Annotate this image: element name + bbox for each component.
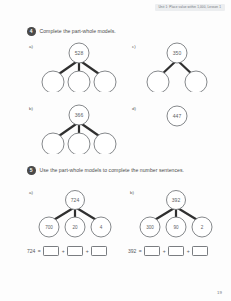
part-value-5a-3: 4 (100, 225, 103, 230)
part-circle-4a-3[interactable] (94, 71, 116, 92)
part-value-5a-1: 700 (45, 225, 53, 230)
number-sentence-5a: 724 = + + (27, 246, 107, 256)
part-value-5a-2: 20 (72, 225, 78, 230)
part-circle-4b-1[interactable] (42, 133, 64, 154)
whole-value-4a: 528 (75, 50, 84, 56)
part-circle-4a-2[interactable] (68, 71, 90, 92)
worksheet-page: Unit 1: Place value within 1,000, Lesson… (0, 0, 231, 301)
question-4-number-badge: 4 (27, 27, 36, 36)
part-circle-4b-2[interactable] (68, 133, 90, 154)
sentence-5a-plus-1: + (62, 248, 65, 254)
part-label-5b: b) (130, 190, 134, 195)
question-4-heading: 4 Complete the part-whole models. (0, 27, 231, 36)
part-circle-4b-3[interactable] (94, 133, 116, 154)
sentence-5a-blank-1[interactable] (43, 246, 59, 256)
part-whole-model-5b[interactable]: 392 300 90 2 (136, 188, 216, 238)
page-number: 19 (217, 290, 222, 295)
question-4: 4 Complete the part-whole models. (0, 27, 231, 36)
sentence-5b-blank-2[interactable] (168, 246, 184, 256)
sentence-5b-plus-1: + (163, 248, 166, 254)
part-label-4b: b) (29, 106, 33, 111)
part-whole-model-4a[interactable]: 528 (40, 40, 118, 92)
running-header-text: Unit 1: Place value within 1,000, Lesson… (159, 6, 221, 9)
sentence-5b-blank-1[interactable] (144, 246, 160, 256)
part-label-4c: c) (132, 44, 136, 49)
part-circle-4c-2[interactable] (185, 71, 207, 92)
whole-value-4d: 447 (173, 113, 182, 119)
sentence-5b-equals: = (139, 248, 142, 254)
whole-value-5a: 724 (71, 197, 80, 203)
whole-value-4b: 366 (75, 112, 84, 118)
running-header: Unit 1: Place value within 1,000, Lesson… (155, 4, 225, 11)
question-5-instruction: Use the part-whole models to complete th… (40, 168, 185, 173)
question-5: 5 Use the part-whole models to complete … (0, 166, 231, 175)
part-value-5b-3: 2 (201, 225, 204, 230)
sentence-5b-blank-3[interactable] (192, 246, 208, 256)
part-value-5b-1: 300 (146, 225, 154, 230)
part-circle-4a-1[interactable] (42, 71, 64, 92)
part-whole-model-4c[interactable]: 350 (144, 40, 210, 92)
part-label-5a: a) (29, 190, 33, 195)
part-circle-4c-1[interactable] (147, 71, 169, 92)
question-5-heading: 5 Use the part-whole models to complete … (0, 166, 231, 175)
sentence-5a-equals: = (38, 248, 41, 254)
part-label-4d: d) (132, 106, 136, 111)
sentence-5a-blank-3[interactable] (91, 246, 107, 256)
part-whole-model-4b[interactable]: 366 (40, 102, 118, 154)
part-whole-model-4d[interactable]: 447 (144, 102, 210, 132)
question-5-number-badge: 5 (27, 166, 36, 175)
part-label-4a: a) (29, 44, 33, 49)
sentence-5a-whole: 724 (27, 248, 35, 254)
sentence-5a-blank-2[interactable] (67, 246, 83, 256)
sentence-5b-whole: 392 (128, 248, 136, 254)
part-value-5b-2: 90 (173, 225, 179, 230)
sentence-5a-plus-2: + (86, 248, 89, 254)
part-whole-model-5a[interactable]: 724 700 20 4 (35, 188, 115, 238)
sentence-5b-plus-2: + (187, 248, 190, 254)
question-4-instruction: Complete the part-whole models. (40, 29, 116, 34)
whole-value-5b: 392 (172, 197, 181, 203)
whole-value-4c: 350 (173, 50, 182, 56)
number-sentence-5b: 392 = + + (128, 246, 208, 256)
